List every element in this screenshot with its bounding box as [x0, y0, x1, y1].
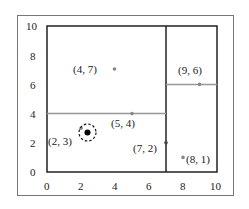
query-dot — [85, 130, 91, 136]
point-9-6 — [198, 83, 202, 87]
point-7-2 — [164, 141, 168, 145]
label-8-1: (8, 1) — [186, 153, 210, 166]
x-tick-0: 0 — [44, 180, 50, 192]
y-tick-4: 4 — [30, 108, 36, 120]
x-tick-8: 8 — [180, 180, 186, 192]
plot-border — [47, 26, 217, 172]
label-4-7: (4, 7) — [73, 63, 97, 76]
label-7-2: (7, 2) — [133, 142, 157, 155]
x-axis-ticks: 0 2 4 6 8 10 — [44, 180, 222, 192]
kd-tree-diagram: 10 8 6 4 2 0 0 2 4 6 8 10 (2, 3) (5, 4) … — [0, 0, 249, 209]
point-5-4 — [130, 112, 134, 116]
y-tick-2: 2 — [30, 137, 36, 149]
label-5-4: (5, 4) — [111, 117, 135, 130]
x-tick-10: 10 — [210, 180, 222, 192]
label-9-6: (9, 6) — [178, 64, 202, 77]
data-points: (2, 3) (5, 4) (4, 7) (7, 2) (8, 1) (9, 6… — [48, 63, 210, 166]
y-tick-6: 6 — [30, 79, 36, 91]
x-tick-4: 4 — [112, 180, 118, 192]
y-tick-8: 8 — [30, 50, 36, 62]
y-axis-ticks: 10 8 6 4 2 0 — [26, 20, 38, 178]
y-tick-0: 0 — [30, 166, 36, 178]
y-tick-10: 10 — [26, 20, 38, 32]
x-tick-2: 2 — [78, 180, 84, 192]
point-4-7 — [113, 67, 117, 71]
query-point — [79, 124, 96, 141]
point-8-1 — [181, 156, 185, 160]
label-2-3: (2, 3) — [48, 135, 72, 148]
outer-frame — [18, 16, 234, 196]
x-tick-6: 6 — [146, 180, 152, 192]
